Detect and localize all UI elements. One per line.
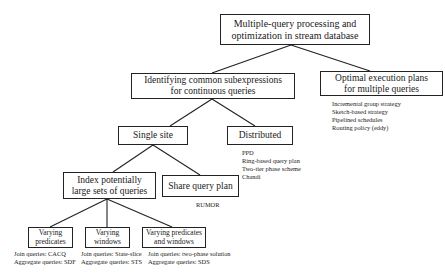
vw-line2: windows	[94, 238, 121, 247]
root-line2: optimization in stream database	[232, 30, 359, 42]
note: Join queries: two-phase solution	[148, 250, 231, 258]
index-line2: large sets of queries	[72, 186, 148, 197]
note: Aggregate queries: SDF	[14, 258, 76, 266]
note: Sketch-based strategy	[332, 108, 401, 116]
optimal-notes: Incremental group strategy Sketch-based …	[332, 100, 401, 132]
distributed-notes: PPD Ring-based query plan Two-tier phase…	[242, 149, 301, 181]
note: Aggregate queries: STS	[81, 258, 142, 266]
note: Join queries: CACQ	[14, 250, 76, 258]
single-site-label: Single site	[133, 130, 173, 141]
note: Routing policy (eddy)	[332, 124, 401, 132]
varying-predicates-notes: Join queries: CACQ Aggregate queries: SD…	[14, 250, 76, 266]
root-line1: Multiple-query processing and	[232, 18, 359, 30]
optimal-execution-node: Optimal execution plans for multiple que…	[320, 71, 443, 96]
varying-both-notes: Join queries: two-phase solution Aggrega…	[148, 250, 231, 266]
optimal-line2: for multiple queries	[335, 84, 428, 95]
single-site-node: Single site	[118, 126, 188, 145]
vp-line2: predicates	[35, 238, 65, 247]
share-notes: RUMOR	[196, 201, 219, 209]
varying-predicates-windows-node: Varying predicates and windows	[142, 227, 206, 248]
note: RUMOR	[196, 201, 219, 209]
root-node: Multiple-query processing and optimizati…	[220, 14, 370, 45]
note: Ring-based query plan	[242, 157, 301, 165]
share-query-plan-node: Share query plan	[162, 175, 239, 197]
index-line1: Index potentially	[72, 175, 148, 186]
note: Join queries: State-slice	[81, 250, 142, 258]
identify-subexpressions-node: Identifying common subexpressions for co…	[131, 73, 295, 99]
note: PPD	[242, 149, 301, 157]
note: Chandi	[242, 173, 301, 181]
varying-windows-node: Varying windows	[85, 227, 130, 248]
identify-line1: Identifying common subexpressions	[144, 75, 282, 86]
note: Incremental group strategy	[332, 100, 401, 108]
note: Two-tier phase scheme	[242, 165, 301, 173]
share-label: Share query plan	[168, 181, 232, 192]
distributed-label: Distributed	[239, 130, 282, 141]
note: Pipelined schedules	[332, 116, 401, 124]
optimal-line1: Optimal execution plans	[335, 73, 428, 84]
varying-windows-notes: Join queries: State-slice Aggregate quer…	[81, 250, 142, 266]
identify-line2: for continuous queries	[144, 86, 282, 97]
varying-predicates-node: Varying predicates	[28, 227, 73, 248]
distributed-node: Distributed	[227, 126, 293, 145]
note: Aggregate queries: SDS	[148, 258, 231, 266]
vb-line2: and windows	[146, 238, 202, 247]
index-queries-node: Index potentially large sets of queries	[63, 172, 156, 199]
